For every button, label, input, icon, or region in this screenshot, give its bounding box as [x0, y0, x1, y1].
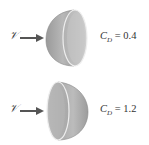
velocity-symbol: 𝒱: [9, 102, 18, 115]
velocity-symbol: 𝒱: [9, 29, 18, 42]
drag-coefficient-label: CD = 1.2: [100, 103, 136, 117]
hemisphere-concave-icon: [44, 80, 90, 142]
hemisphere-case-convex: 𝒱 CD = 0.4: [0, 0, 149, 72]
flow-arrow: [20, 34, 44, 42]
hemisphere-case-concave: 𝒱 CD = 1.2: [0, 72, 149, 144]
cd-value: 1.2: [123, 103, 136, 114]
flow-arrow: [20, 107, 44, 115]
hemisphere-convex-icon: [44, 8, 90, 68]
cd-value: 0.4: [123, 30, 136, 41]
cd-symbol: C: [100, 30, 107, 41]
drag-coefficient-label: CD = 0.4: [100, 30, 136, 44]
cd-equals: =: [112, 103, 123, 114]
cd-equals: =: [112, 30, 123, 41]
cd-symbol: C: [100, 103, 107, 114]
